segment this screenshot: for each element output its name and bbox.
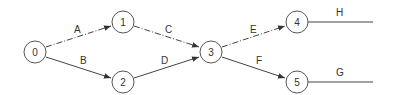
node-label: 0 — [32, 47, 38, 58]
edge-label-H: H — [336, 7, 343, 18]
node-4: 4 — [286, 11, 308, 33]
network-diagram: A B C D E F H G 0 1 2 3 4 5 — [0, 0, 393, 95]
edge-label-A: A — [74, 24, 81, 35]
edge-F — [222, 57, 285, 78]
edge-label-C: C — [165, 24, 172, 35]
edge-label-B: B — [80, 55, 87, 66]
edge-label-G: G — [336, 67, 344, 78]
edge-label-E: E — [250, 24, 257, 35]
edge-B — [46, 57, 111, 78]
edge-label-F: F — [256, 55, 262, 66]
edge-label-D: D — [161, 55, 168, 66]
node-label: 1 — [120, 17, 126, 28]
node-2: 2 — [112, 71, 134, 93]
node-label: 5 — [294, 77, 300, 88]
node-5: 5 — [286, 71, 308, 93]
node-label: 4 — [294, 17, 300, 28]
node-0: 0 — [24, 41, 46, 63]
node-1: 1 — [112, 11, 134, 33]
node-label: 2 — [120, 77, 126, 88]
node-3: 3 — [200, 41, 222, 63]
node-label: 3 — [208, 47, 214, 58]
